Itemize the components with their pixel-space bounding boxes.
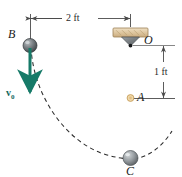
diagram-vector-layer [0, 0, 182, 177]
velocity-subscript: 0 [11, 93, 15, 101]
peg-a [127, 95, 134, 102]
label-point-c: C [126, 165, 134, 177]
pin-support-block [113, 28, 148, 37]
dimension-label-2ft: 2 ft [66, 13, 80, 23]
dimension-label-1ft: 1 ft [154, 67, 168, 77]
label-point-a: A [137, 91, 144, 103]
physics-diagram-canvas: B O A C 2 ft 1 ft v0 [0, 0, 182, 177]
swing-path-arc [31, 47, 172, 159]
label-point-o: O [144, 34, 153, 46]
label-velocity-v0: v0 [6, 88, 15, 101]
label-point-b: B [8, 28, 15, 40]
